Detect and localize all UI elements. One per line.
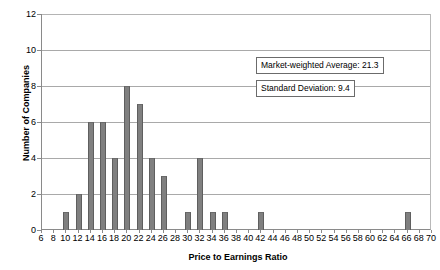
x-tick-label-64: 64 bbox=[389, 233, 399, 243]
x-tick-label-30: 30 bbox=[182, 233, 192, 243]
y-tick-label-10: 10 bbox=[8, 45, 36, 55]
x-tick-mark-54 bbox=[334, 230, 335, 233]
x-tick-mark-68 bbox=[419, 230, 420, 233]
x-tick-label-46: 46 bbox=[280, 233, 290, 243]
x-tick-label-24: 24 bbox=[146, 233, 156, 243]
x-tick-mark-50 bbox=[309, 230, 310, 233]
x-tick-mark-16 bbox=[102, 230, 103, 233]
x-tick-mark-20 bbox=[126, 230, 127, 233]
x-tick-label-70: 70 bbox=[426, 233, 436, 243]
x-tick-mark-36 bbox=[224, 230, 225, 233]
annotation-box-2: Standard Deviation: 9.4 bbox=[256, 80, 355, 97]
y-tick-label-0: 0 bbox=[8, 225, 36, 235]
y-tick-mark-6 bbox=[37, 122, 41, 123]
y-tick-label-2: 2 bbox=[8, 189, 36, 199]
y-tick-mark-12 bbox=[37, 14, 41, 15]
bar bbox=[88, 122, 94, 230]
y-tick-mark-8 bbox=[37, 86, 41, 87]
bar bbox=[63, 212, 69, 230]
x-tick-mark-46 bbox=[285, 230, 286, 233]
x-tick-label-22: 22 bbox=[133, 233, 143, 243]
bar bbox=[222, 212, 228, 230]
x-tick-label-56: 56 bbox=[341, 233, 351, 243]
x-tick-label-66: 66 bbox=[402, 233, 412, 243]
x-tick-mark-66 bbox=[407, 230, 408, 233]
x-tick-label-26: 26 bbox=[158, 233, 168, 243]
x-tick-mark-58 bbox=[358, 230, 359, 233]
x-tick-label-14: 14 bbox=[85, 233, 95, 243]
x-tick-mark-6 bbox=[41, 230, 42, 233]
x-tick-mark-24 bbox=[151, 230, 152, 233]
bar bbox=[161, 176, 167, 230]
x-tick-label-12: 12 bbox=[73, 233, 83, 243]
x-tick-label-18: 18 bbox=[109, 233, 119, 243]
y-tick-mark-10 bbox=[37, 50, 41, 51]
x-tick-mark-52 bbox=[321, 230, 322, 233]
x-tick-label-58: 58 bbox=[353, 233, 363, 243]
bar bbox=[112, 158, 118, 230]
x-tick-label-48: 48 bbox=[292, 233, 302, 243]
x-tick-label-38: 38 bbox=[231, 233, 241, 243]
x-tick-mark-26 bbox=[163, 230, 164, 233]
x-tick-label-50: 50 bbox=[304, 233, 314, 243]
x-tick-mark-38 bbox=[236, 230, 237, 233]
x-tick-label-6: 6 bbox=[38, 233, 43, 243]
bar bbox=[100, 122, 106, 230]
x-tick-label-28: 28 bbox=[170, 233, 180, 243]
histogram-chart: Number of Companies 024681012 6810121416… bbox=[0, 0, 440, 270]
x-tick-mark-22 bbox=[139, 230, 140, 233]
bar bbox=[185, 212, 191, 230]
bar bbox=[405, 212, 411, 230]
x-tick-label-68: 68 bbox=[414, 233, 424, 243]
x-tick-mark-70 bbox=[431, 230, 432, 233]
x-tick-mark-42 bbox=[260, 230, 261, 233]
bar bbox=[149, 158, 155, 230]
annotation-box-1: Market-weighted Average: 21.3 bbox=[256, 57, 384, 74]
bar bbox=[76, 194, 82, 230]
bar bbox=[258, 212, 264, 230]
y-tick-label-12: 12 bbox=[8, 9, 36, 19]
x-tick-mark-10 bbox=[65, 230, 66, 233]
x-tick-label-62: 62 bbox=[377, 233, 387, 243]
x-tick-mark-48 bbox=[297, 230, 298, 233]
y-tick-label-4: 4 bbox=[8, 153, 36, 163]
bar bbox=[137, 104, 143, 230]
gridline-y-12 bbox=[42, 14, 430, 15]
y-tick-label-6: 6 bbox=[8, 117, 36, 127]
x-tick-mark-64 bbox=[394, 230, 395, 233]
x-tick-label-16: 16 bbox=[97, 233, 107, 243]
bar bbox=[124, 86, 130, 230]
x-tick-label-34: 34 bbox=[207, 233, 217, 243]
x-tick-mark-40 bbox=[248, 230, 249, 233]
y-tick-mark-2 bbox=[37, 194, 41, 195]
x-tick-mark-44 bbox=[273, 230, 274, 233]
x-tick-mark-34 bbox=[212, 230, 213, 233]
x-tick-label-20: 20 bbox=[121, 233, 131, 243]
x-tick-mark-62 bbox=[382, 230, 383, 233]
x-tick-mark-18 bbox=[114, 230, 115, 233]
y-tick-label-8: 8 bbox=[8, 81, 36, 91]
x-tick-mark-28 bbox=[175, 230, 176, 233]
x-tick-label-32: 32 bbox=[194, 233, 204, 243]
x-tick-label-60: 60 bbox=[365, 233, 375, 243]
gridline-y-10 bbox=[42, 50, 430, 51]
y-tick-mark-4 bbox=[37, 158, 41, 159]
plot-area bbox=[41, 14, 431, 230]
x-tick-mark-14 bbox=[90, 230, 91, 233]
x-tick-mark-8 bbox=[53, 230, 54, 233]
x-tick-label-52: 52 bbox=[316, 233, 326, 243]
x-tick-label-36: 36 bbox=[219, 233, 229, 243]
x-tick-label-40: 40 bbox=[243, 233, 253, 243]
x-tick-mark-56 bbox=[346, 230, 347, 233]
x-tick-label-54: 54 bbox=[328, 233, 338, 243]
x-tick-label-10: 10 bbox=[60, 233, 70, 243]
x-tick-label-42: 42 bbox=[255, 233, 265, 243]
bar bbox=[210, 212, 216, 230]
x-tick-mark-12 bbox=[78, 230, 79, 233]
x-tick-mark-30 bbox=[187, 230, 188, 233]
bar bbox=[197, 158, 203, 230]
x-tick-mark-60 bbox=[370, 230, 371, 233]
gridline-y-8 bbox=[42, 86, 430, 87]
x-tick-mark-32 bbox=[199, 230, 200, 233]
x-axis-title: Price to Earnings Ratio bbox=[40, 252, 436, 262]
